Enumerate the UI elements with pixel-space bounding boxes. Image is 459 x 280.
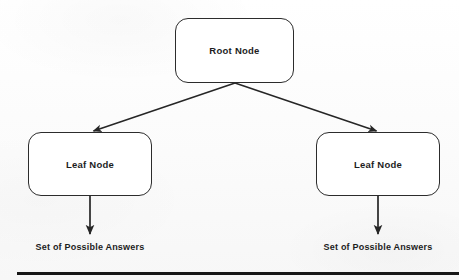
root-node-label: Root Node xyxy=(209,45,259,56)
leaf-node-right: Leaf Node xyxy=(316,132,440,196)
edge-root-to-leaf-left xyxy=(94,83,236,131)
answers-label-left: Set of Possible Answers xyxy=(36,242,145,252)
edge-root-to-leaf-right xyxy=(235,83,377,131)
leaf-node-right-label: Leaf Node xyxy=(354,159,402,170)
diagram-canvas: Root Node Leaf Node Leaf Node Set of Pos… xyxy=(0,0,459,280)
root-node: Root Node xyxy=(175,18,294,83)
bottom-horizontal-rule xyxy=(17,272,459,275)
leaf-node-left: Leaf Node xyxy=(28,132,152,196)
answers-label-right: Set of Possible Answers xyxy=(324,242,433,252)
leaf-node-left-label: Leaf Node xyxy=(66,159,114,170)
